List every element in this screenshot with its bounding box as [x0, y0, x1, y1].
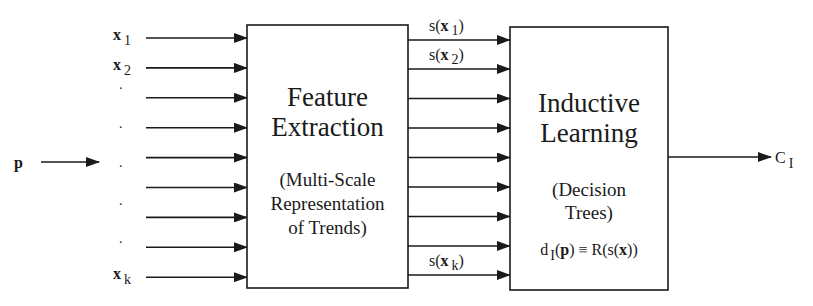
learning-box-title-line-1: Inductive — [538, 88, 640, 118]
learning-box-title-line-2: Learning — [540, 118, 637, 148]
feature-extraction-pipeline-diagram: p x1x2.....xk Feature Extraction (Multi-… — [0, 0, 813, 306]
ellipsis-dot: . — [119, 155, 123, 170]
input-vector-label-2: x2 — [113, 56, 131, 78]
feature-output-label-1: s(x1) — [429, 17, 464, 38]
feature-output-label-9: s(xk) — [429, 252, 464, 273]
feature-box-title-line-1: Feature — [287, 82, 368, 112]
ellipsis-dot: . — [119, 231, 123, 246]
input-p-label: p — [14, 154, 23, 172]
output-label: CI — [775, 149, 794, 171]
input-vector-label-9: xk — [113, 265, 131, 287]
ellipsis-dot: . — [119, 77, 123, 92]
feature-box-subtitle-line-3: of Trends) — [288, 217, 367, 239]
feature-box-subtitle-line-1: (Multi-Scale — [279, 169, 375, 191]
input-vector-label-1: x1 — [113, 26, 131, 48]
learning-box-subtitle-line-1: (Decision — [552, 179, 626, 201]
feature-output-group: s(x1)s(x2)s(xk) — [408, 17, 510, 275]
feature-box-subtitle-line-2: Representation — [271, 193, 385, 214]
learning-box-subtitle-line-2: Trees) — [565, 202, 613, 224]
feature-output-label-2: s(x2) — [429, 46, 464, 67]
input-vector-group: x1x2.....xk — [113, 26, 247, 287]
feature-box-title-line-2: Extraction — [271, 112, 384, 142]
feature-extraction-box — [247, 25, 408, 288]
ellipsis-dot: . — [119, 116, 123, 131]
ellipsis-dot: . — [119, 193, 123, 208]
